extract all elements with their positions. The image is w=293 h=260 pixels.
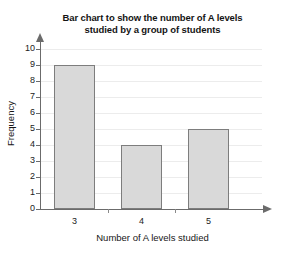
y-axis-tick	[36, 161, 41, 162]
y-axis-tick	[36, 97, 41, 98]
x-axis-line	[40, 209, 264, 210]
y-axis-tick-label: 6	[15, 108, 35, 117]
y-axis-tick-label: 3	[15, 156, 35, 165]
y-axis-tick	[36, 129, 41, 130]
y-axis-tick-label: 2	[15, 172, 35, 181]
x-axis-tick-label-3: 3	[55, 216, 95, 226]
y-axis-tick-label: 10	[15, 44, 35, 53]
x-axis-arrow-icon	[263, 205, 272, 213]
y-axis-arrow-icon	[36, 33, 44, 42]
y-axis-tick	[36, 81, 41, 82]
y-axis-tick-label: 9	[15, 60, 35, 69]
x-axis-minor-tick	[108, 209, 109, 213]
x-axis-tick-label-4: 4	[122, 216, 162, 226]
x-axis-title: Number of A levels studied	[30, 232, 275, 243]
gridline	[40, 49, 262, 50]
y-axis-title: Frequency	[5, 88, 16, 160]
y-axis-tick	[36, 49, 41, 50]
y-axis-tick	[36, 65, 41, 66]
bar-3	[54, 65, 95, 209]
bar-5	[188, 129, 229, 209]
y-axis-tick-label: 0	[15, 204, 35, 213]
y-axis-tick-label: 1	[15, 188, 35, 197]
y-axis-tick-label: 4	[15, 140, 35, 149]
y-axis-tick	[36, 193, 41, 194]
y-axis-tick-label: 5	[15, 124, 35, 133]
x-axis-minor-tick	[175, 209, 176, 213]
chart-title-line-1: Bar chart to show the number of A levels	[30, 12, 275, 24]
bar-chart-figure: Bar chart to show the number of A levels…	[0, 0, 293, 260]
y-axis-tick-label: 8	[15, 76, 35, 85]
bar-4	[121, 145, 162, 209]
chart-title: Bar chart to show the number of A levels…	[30, 12, 275, 36]
y-axis-tick	[36, 145, 41, 146]
y-axis-tick	[36, 113, 41, 114]
y-axis-tick-label: 7	[15, 92, 35, 101]
y-axis-tick	[36, 177, 41, 178]
y-axis-tick	[36, 209, 41, 210]
x-axis-tick-label-5: 5	[189, 216, 229, 226]
chart-title-line-2: studied by a group of students	[30, 24, 275, 36]
